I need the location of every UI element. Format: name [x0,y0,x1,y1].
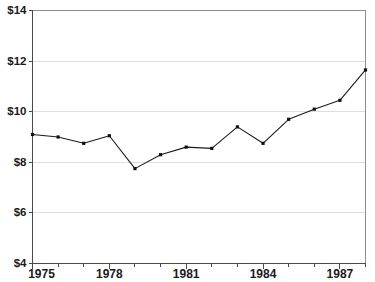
data-point-1981 [185,146,188,149]
data-point-1983 [236,125,239,128]
x-axis-label-1981: 1981 [173,267,200,281]
data-point-1979 [133,167,136,170]
data-point-1987 [338,99,341,102]
y-axis-label-6: $6 [14,206,27,218]
data-point-1980 [159,153,162,156]
data-point-1977 [82,142,85,145]
y-axis-label-8: $8 [14,156,27,168]
data-point-1984 [261,142,264,145]
data-point-1975 [31,133,34,136]
data-point-1985 [287,118,290,121]
data-point-1978 [108,134,111,137]
line-chart: $14$12$10$8$6$4 19751978198119841987 [0,0,375,282]
x-axis-label-1975: 1975 [28,267,55,281]
chart-canvas: $14$12$10$8$6$4 19751978198119841987 [0,0,375,282]
chart-background [0,0,375,282]
data-point-1986 [313,108,316,111]
data-point-1988 [364,68,367,71]
y-axis-label-14: $14 [7,4,27,16]
y-axis-label-10: $10 [7,105,26,117]
x-axis-label-1987: 1987 [327,267,354,281]
y-axis-label-4: $4 [14,257,27,269]
data-point-1982 [210,147,213,150]
x-axis-label-1978: 1978 [96,267,123,281]
y-axis-label-12: $12 [7,55,26,67]
x-axis-label-1984: 1984 [250,267,277,281]
data-point-1976 [57,135,60,138]
